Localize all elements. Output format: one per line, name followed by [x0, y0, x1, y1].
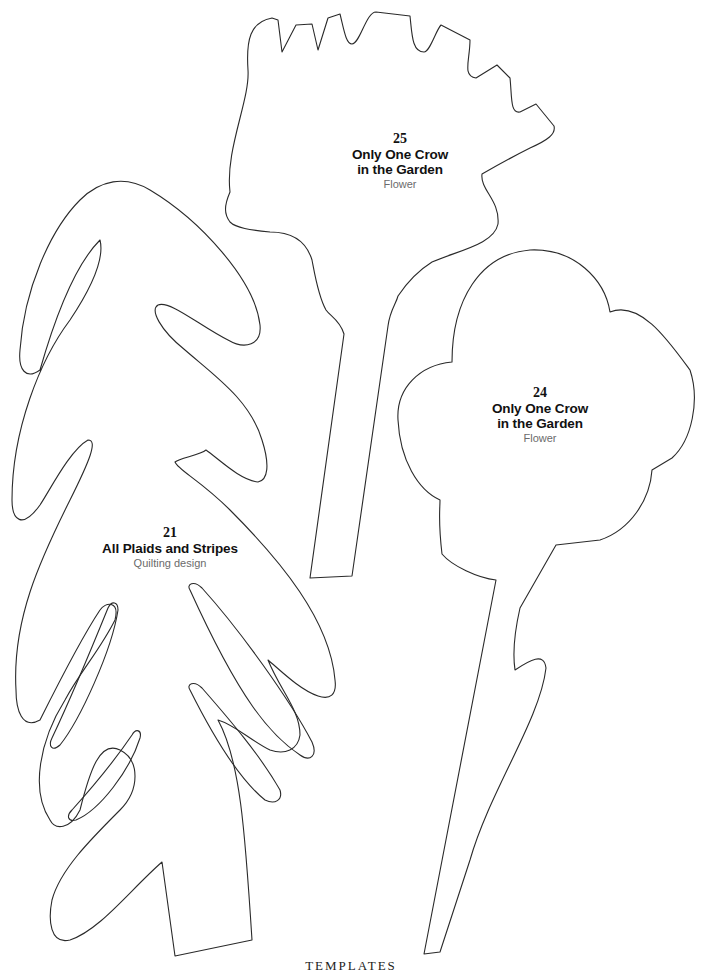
template-24-outline [398, 250, 694, 954]
template-page: 25 Only One Crow in the Garden Flower 24… [0, 0, 702, 971]
template-21-slit-2 [189, 684, 281, 802]
template-21-slit-3 [50, 603, 118, 748]
page-footer-title: TEMPLATES [0, 958, 702, 971]
template-25-number: 25 [315, 131, 485, 147]
template-25-title-line1: Only One Crow [315, 147, 485, 162]
template-21-subtitle: Quilting design [70, 557, 270, 569]
template-21-slit-4 [69, 731, 141, 821]
template-25-outline [226, 12, 555, 578]
template-25-subtitle: Flower [315, 178, 485, 190]
template-24-title-line2: in the Garden [460, 416, 620, 431]
template-21-slit-1 [189, 584, 314, 758]
template-24-number: 24 [460, 385, 620, 401]
template-21-title: All Plaids and Stripes [70, 541, 270, 556]
template-24-title-line1: Only One Crow [460, 401, 620, 416]
template-25-label: 25 Only One Crow in the Garden Flower [315, 131, 485, 190]
template-24-label: 24 Only One Crow in the Garden Flower [460, 385, 620, 444]
template-21-label: 21 All Plaids and Stripes Quilting desig… [70, 525, 270, 569]
template-25-title-line2: in the Garden [315, 162, 485, 177]
template-21-number: 21 [70, 525, 270, 541]
template-24-subtitle: Flower [460, 432, 620, 444]
